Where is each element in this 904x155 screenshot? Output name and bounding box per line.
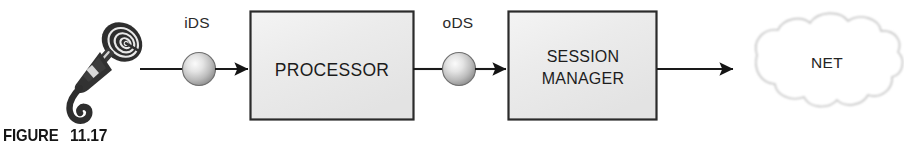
node-session-manager: SESSION MANAGER	[509, 12, 657, 120]
microphone-icon	[69, 14, 150, 121]
figure-caption: FIGURE 11.17	[3, 126, 111, 146]
processor-label: PROCESSOR	[275, 60, 390, 80]
session-manager-label-line1: SESSION	[547, 48, 620, 65]
node-ids	[183, 53, 216, 86]
session-manager-label-line2: MANAGER	[542, 70, 624, 87]
net-label: NET	[811, 54, 843, 71]
ids-sphere	[183, 53, 216, 86]
figure-caption-word: FIGURE	[3, 126, 58, 146]
signal-flow-diagram: iDS PROCESSOR oDS SESSION MANAGER NET	[0, 0, 904, 155]
node-net: NET	[756, 13, 903, 106]
figure-caption-number: 11.17	[70, 126, 107, 146]
node-ods	[443, 53, 476, 86]
figure-container: iDS PROCESSOR oDS SESSION MANAGER NET	[0, 0, 904, 155]
ods-sphere	[443, 53, 476, 86]
node-processor: PROCESSOR	[251, 12, 414, 120]
session-manager-box	[509, 12, 657, 120]
ids-label: iDS	[184, 14, 210, 31]
ods-label: oDS	[443, 14, 474, 31]
